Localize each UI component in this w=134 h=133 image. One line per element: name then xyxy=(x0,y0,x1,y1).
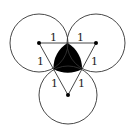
label-top-right: 1 xyxy=(77,31,84,44)
label-right-lower: 1 xyxy=(78,77,85,90)
label-top-left: 1 xyxy=(50,31,57,44)
center-dot-bottom xyxy=(66,93,70,97)
label-left-lower: 1 xyxy=(51,77,58,90)
tangent-circles-diagram: 1 1 1 1 1 1 xyxy=(0,0,134,133)
label-left-upper: 1 xyxy=(37,55,44,68)
center-dot-right xyxy=(94,41,98,45)
label-right-upper: 1 xyxy=(91,55,98,68)
center-dot-left xyxy=(37,41,41,45)
